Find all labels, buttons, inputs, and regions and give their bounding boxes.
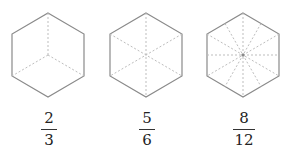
hexagon-thirds bbox=[12, 13, 84, 97]
fraction-bar bbox=[233, 129, 255, 130]
hexagon-twelfths bbox=[207, 13, 279, 97]
denominator: 3 bbox=[29, 132, 69, 148]
fraction-bar bbox=[41, 129, 57, 130]
numerator: 2 bbox=[29, 110, 69, 126]
hexagon-sixths bbox=[110, 13, 182, 97]
fraction-label-1: 2 3 bbox=[29, 110, 69, 148]
denominator: 6 bbox=[127, 132, 167, 148]
center-dot bbox=[241, 53, 244, 56]
numerator: 5 bbox=[127, 110, 167, 126]
fraction-label-3: 8 12 bbox=[224, 110, 264, 148]
hexagons-diagram bbox=[0, 0, 290, 110]
numerator: 8 bbox=[224, 110, 264, 126]
denominator: 12 bbox=[224, 132, 264, 148]
fraction-bar bbox=[139, 129, 155, 130]
fraction-label-2: 5 6 bbox=[127, 110, 167, 148]
